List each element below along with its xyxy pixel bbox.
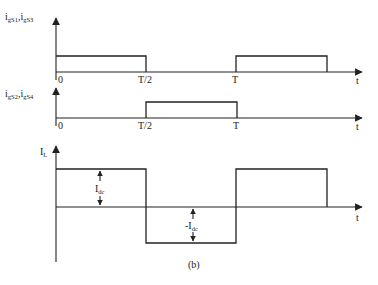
waveform-diagram: igS1,igS3 0 T/2 T t igS2,igS4 0 T/2 T t … xyxy=(0,0,378,285)
tick-zero: 0 xyxy=(58,74,63,85)
tick-zero: 0 xyxy=(58,120,63,131)
panel-gate-s2-s4: igS2,igS4 0 T/2 T t xyxy=(5,88,362,132)
gate-pulse-2 xyxy=(236,56,327,72)
gate-pulse-1 xyxy=(56,56,146,72)
x-label-t: t xyxy=(356,121,359,132)
x-label-t: t xyxy=(356,75,359,86)
figure-caption: (b) xyxy=(188,259,200,271)
tick-period: T xyxy=(233,120,239,131)
y-label-gate-s2-s4: igS2,igS4 xyxy=(5,88,34,100)
tick-period: T xyxy=(232,74,238,85)
y-label-inductor-current: IL xyxy=(40,146,47,158)
panel-gate-s1-s3: igS1,igS3 0 T/2 T t xyxy=(5,11,362,86)
y-label-gate-s1-s3: igS1,igS3 xyxy=(5,11,33,23)
x-label-t: t xyxy=(356,212,359,223)
tick-half-period: T/2 xyxy=(138,74,152,85)
idc-label: Idc xyxy=(95,183,105,195)
neg-idc-label: -Idc xyxy=(185,220,198,232)
panel-inductor-current: IL Idc -Idc t xyxy=(40,146,362,262)
tick-half-period: T/2 xyxy=(138,120,152,131)
gate-pulse xyxy=(146,102,237,118)
